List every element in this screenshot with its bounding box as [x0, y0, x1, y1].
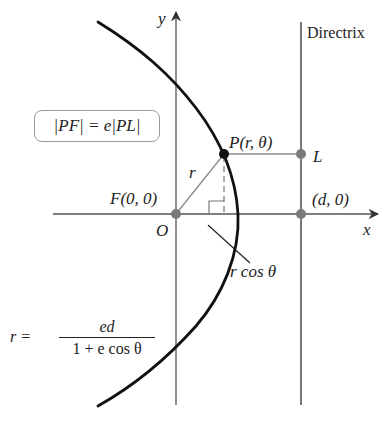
r-cos-theta-pointer	[208, 225, 250, 263]
focus-directrix-equation: |PF| = e|PL|	[35, 111, 159, 141]
point-P	[219, 149, 229, 159]
focus-directrix-equation-box: |PF| = e|PL|	[34, 110, 160, 142]
polar-equation-lhs: r =	[10, 328, 31, 346]
directrix-label: Directrix	[307, 25, 365, 41]
diagram-canvas	[0, 0, 389, 422]
x-axis-label: x	[363, 221, 371, 238]
y-axis-label: y	[158, 10, 166, 27]
fraction-bar	[59, 337, 155, 338]
point-F	[171, 209, 181, 219]
point-L-label: L	[313, 148, 322, 165]
right-angle-marker	[209, 201, 224, 214]
origin-label: O	[156, 222, 168, 239]
point-P-label: P(r, θ)	[229, 134, 272, 151]
point-D	[296, 209, 306, 219]
r-label: r	[189, 164, 196, 181]
r-cos-theta-label: r cos θ	[230, 263, 276, 280]
point-D-label: (d, 0)	[312, 191, 349, 208]
point-L	[296, 149, 306, 159]
polar-equation-denominator: 1 + e cos θ	[59, 340, 155, 358]
conic-diagram: y x O Directrix P(r, θ) L F(0, 0) (d, 0)…	[0, 0, 389, 422]
segment-PF	[176, 154, 224, 214]
polar-equation-numerator: ed	[59, 318, 155, 336]
point-F-label: F(0, 0)	[110, 190, 157, 207]
